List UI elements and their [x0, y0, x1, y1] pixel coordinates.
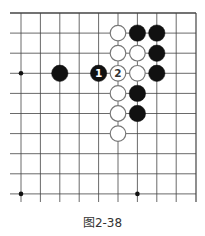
white-stone	[110, 126, 126, 142]
go-board: 12	[0, 0, 205, 210]
black-stone	[129, 85, 145, 101]
white-stone	[130, 45, 146, 61]
star-point-icon	[19, 71, 24, 76]
white-stone	[110, 86, 126, 102]
star-point-icon	[135, 192, 140, 197]
move-number-label: 2	[114, 67, 121, 79]
white-stone	[110, 45, 126, 61]
white-stone	[110, 25, 126, 41]
black-stone	[149, 25, 165, 41]
white-stone	[110, 106, 126, 122]
black-stone	[149, 65, 165, 81]
move-number-label: 1	[95, 67, 102, 79]
white-stone	[130, 66, 146, 82]
black-stone	[149, 45, 165, 61]
black-stone	[129, 105, 145, 121]
black-stone	[129, 25, 145, 41]
figure-caption: 图2-38	[0, 213, 205, 230]
black-stone	[52, 65, 68, 81]
star-point-icon	[19, 192, 24, 197]
